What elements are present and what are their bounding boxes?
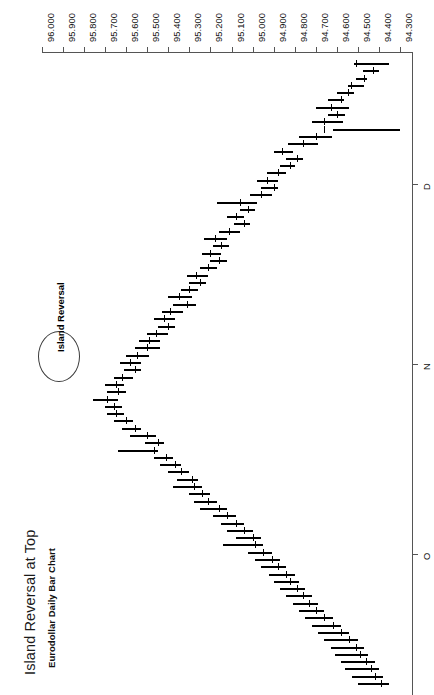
price-axis-tick (316, 47, 317, 52)
price-axis-tick-label: 95.100 (236, 13, 246, 42)
time-axis-tick (413, 554, 418, 555)
price-axis-tick-label: 95.900 (67, 13, 77, 42)
price-axis-tick-label: 96.000 (46, 13, 56, 42)
price-axis-tick-label: 94.600 (341, 13, 351, 42)
price-axis-tick-label: 94.900 (278, 13, 288, 42)
time-axis-tick-label: D (422, 183, 432, 190)
price-axis-tick (295, 47, 296, 52)
price-axis-tick (400, 47, 401, 52)
price-axis-tick (379, 47, 380, 52)
price-axis-tick-label: 95.200 (214, 13, 224, 42)
time-axis-tick (413, 364, 418, 365)
price-axis-tick-label: 94.800 (299, 13, 309, 42)
price-axis-tick-label: 95.400 (172, 13, 182, 42)
island-reversal-annotation-label: Island Reversal (55, 282, 66, 352)
price-axis-tick (274, 47, 275, 52)
price-axis-tick (253, 47, 254, 52)
page-title: Island Reversal at Top (22, 530, 38, 675)
price-axis-tick (210, 47, 211, 52)
plot-area (42, 52, 413, 695)
price-axis-tick-label: 94.500 (362, 13, 372, 42)
price-axis-tick (337, 47, 338, 52)
time-axis-tick-label: O (422, 552, 432, 559)
price-axis-tick (63, 47, 64, 52)
price-axis-tick (189, 47, 190, 52)
price-axis-tick (168, 47, 169, 52)
time-axis-tick-label: N (422, 363, 432, 370)
price-axis-tick-label: 95.000 (257, 13, 267, 42)
price-axis-tick-label: 95.600 (130, 13, 140, 42)
price-axis-tick (147, 47, 148, 52)
price-axis-tick-label: 95.300 (193, 13, 203, 42)
price-axis-tick (358, 47, 359, 52)
price-axis-tick (42, 47, 43, 52)
price-axis-tick-label: 94.700 (320, 13, 330, 42)
price-axis-tick-label: 95.500 (151, 13, 161, 42)
price-axis-tick (105, 47, 106, 52)
price-axis-tick-label: 95.800 (88, 13, 98, 42)
price-axis-tick-label: 95.700 (109, 13, 119, 42)
time-axis-tick (413, 184, 418, 185)
price-axis-tick (232, 47, 233, 52)
price-axis-tick (84, 47, 85, 52)
price-axis-tick-label: 94.400 (383, 13, 393, 42)
price-axis-tick (126, 47, 127, 52)
price-axis-tick-label: 94.300 (404, 13, 414, 42)
